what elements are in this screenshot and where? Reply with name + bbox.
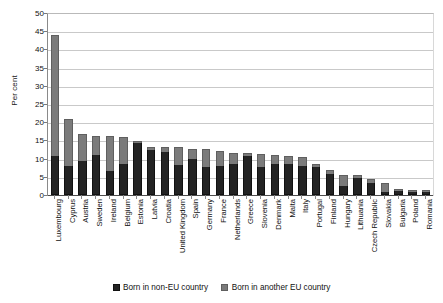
x-label-slot: Luxembourg bbox=[47, 197, 61, 275]
stacked-bar[interactable] bbox=[51, 35, 60, 195]
x-label-slot: Greece bbox=[240, 197, 254, 275]
x-label-slot: Bulgaria bbox=[391, 197, 405, 275]
bar-slot bbox=[282, 14, 296, 195]
y-axis-tick-label: 30 bbox=[35, 81, 44, 90]
x-axis-tick-labels: LuxembourgCyprusAustriaSwedenIrelandBelg… bbox=[47, 197, 432, 275]
y-axis-tick bbox=[44, 13, 47, 14]
bar-segment-born-in-non-eu-country bbox=[367, 183, 376, 195]
bar-slot bbox=[158, 14, 172, 195]
bar-segment-born-in-non-eu-country bbox=[147, 150, 156, 195]
bar-segment-born-in-non-eu-country bbox=[174, 165, 183, 195]
bar-segment-born-in-non-eu-country bbox=[51, 156, 60, 195]
stacked-bar[interactable] bbox=[367, 179, 376, 195]
stacked-bar[interactable] bbox=[106, 136, 115, 195]
x-label-slot: Romania bbox=[418, 197, 432, 275]
bar-slot bbox=[254, 14, 268, 195]
bar-segment-born-in-non-eu-country bbox=[298, 166, 307, 195]
bar-segment-born-in-non-eu-country bbox=[119, 164, 128, 195]
bar-segment-born-in-non-eu-country bbox=[257, 167, 266, 195]
stacked-bar[interactable] bbox=[133, 141, 142, 195]
bar-segment-born-in-non-eu-country bbox=[78, 161, 87, 195]
stacked-bar[interactable] bbox=[353, 175, 362, 195]
y-axis-tick-label: 25 bbox=[35, 100, 44, 109]
bar-slot bbox=[392, 14, 406, 195]
bar-slot bbox=[241, 14, 255, 195]
stacked-bar[interactable] bbox=[284, 156, 293, 195]
bar-segment-born-in-another-eu-country bbox=[381, 183, 390, 192]
stacked-bar[interactable] bbox=[298, 157, 307, 195]
chart-legend: Born in non-EU country Born in another E… bbox=[0, 283, 443, 292]
bar-segment-born-in-another-eu-country bbox=[174, 147, 183, 166]
stacked-bar[interactable] bbox=[147, 147, 156, 195]
stacked-bar[interactable] bbox=[64, 119, 73, 195]
stacked-bar[interactable] bbox=[381, 183, 390, 195]
legend-item-non-eu: Born in non-EU country bbox=[113, 283, 209, 292]
y-axis-tick bbox=[44, 104, 47, 105]
stacked-bar[interactable] bbox=[339, 175, 348, 195]
x-axis-tick-label: Romania bbox=[425, 199, 434, 229]
x-label-slot: Croatia bbox=[157, 197, 171, 275]
stacked-bar[interactable] bbox=[188, 149, 197, 195]
stacked-bar[interactable] bbox=[174, 147, 183, 195]
bar-segment-born-in-non-eu-country bbox=[202, 167, 211, 195]
bar-slot bbox=[144, 14, 158, 195]
y-axis-tick-label: 50 bbox=[35, 9, 44, 18]
bar-segment-born-in-another-eu-country bbox=[284, 156, 293, 164]
legend-swatch-other-eu-icon bbox=[221, 284, 228, 291]
stacked-bar-chart: Per cent 05101520253035404550 Luxembourg… bbox=[0, 0, 443, 303]
stacked-bar[interactable] bbox=[326, 170, 335, 195]
bar-slot bbox=[323, 14, 337, 195]
bar-slot bbox=[351, 14, 365, 195]
x-label-slot: Cyprus bbox=[61, 197, 75, 275]
bar-slot bbox=[62, 14, 76, 195]
stacked-bar[interactable] bbox=[216, 151, 225, 195]
x-label-slot: Estonia bbox=[130, 197, 144, 275]
bar-slot bbox=[227, 14, 241, 195]
bar-slot bbox=[131, 14, 145, 195]
stacked-bar[interactable] bbox=[243, 153, 252, 195]
x-label-slot: Denmark bbox=[267, 197, 281, 275]
stacked-bar[interactable] bbox=[257, 154, 266, 195]
bar-slot bbox=[172, 14, 186, 195]
bar-segment-born-in-non-eu-country bbox=[188, 159, 197, 195]
legend-item-other-eu: Born in another EU country bbox=[221, 283, 330, 292]
x-label-slot: Portugal bbox=[308, 197, 322, 275]
x-label-slot: France bbox=[212, 197, 226, 275]
x-label-slot: Spain bbox=[185, 197, 199, 275]
bar-slot bbox=[117, 14, 131, 195]
y-axis-tick bbox=[44, 177, 47, 178]
bar-slot bbox=[76, 14, 90, 195]
bar-segment-born-in-another-eu-country bbox=[64, 119, 73, 166]
bar-segment-born-in-another-eu-country bbox=[257, 154, 266, 167]
y-axis-tick-labels: 05101520253035404550 bbox=[22, 13, 44, 195]
bar-segment-born-in-non-eu-country bbox=[229, 164, 238, 195]
stacked-bar[interactable] bbox=[271, 155, 280, 195]
bar-segment-born-in-non-eu-country bbox=[133, 143, 142, 195]
bar-segment-born-in-another-eu-country bbox=[119, 137, 128, 164]
bar-group bbox=[48, 14, 433, 195]
bar-segment-born-in-another-eu-country bbox=[92, 136, 101, 155]
bar-segment-born-in-another-eu-country bbox=[106, 136, 115, 171]
stacked-bar[interactable] bbox=[312, 164, 321, 195]
x-label-slot: Germany bbox=[198, 197, 212, 275]
stacked-bar[interactable] bbox=[119, 137, 128, 195]
stacked-bar[interactable] bbox=[161, 147, 170, 195]
bar-slot bbox=[268, 14, 282, 195]
bar-segment-born-in-non-eu-country bbox=[271, 164, 280, 195]
bar-slot bbox=[89, 14, 103, 195]
bar-segment-born-in-another-eu-country bbox=[229, 153, 238, 164]
stacked-bar[interactable] bbox=[78, 134, 87, 196]
bar-segment-born-in-another-eu-country bbox=[78, 134, 87, 162]
x-label-slot: Sweden bbox=[88, 197, 102, 275]
x-label-slot: Netherlands bbox=[226, 197, 240, 275]
y-axis-tick bbox=[44, 49, 47, 50]
y-axis-tick-label: 15 bbox=[35, 136, 44, 145]
x-label-slot: Austria bbox=[75, 197, 89, 275]
stacked-bar[interactable] bbox=[202, 149, 211, 195]
x-label-slot: Czech Republic bbox=[363, 197, 377, 275]
bar-segment-born-in-non-eu-country bbox=[106, 171, 115, 195]
stacked-bar[interactable] bbox=[229, 153, 238, 195]
bar-segment-born-in-another-eu-country bbox=[51, 35, 60, 156]
stacked-bar[interactable] bbox=[92, 136, 101, 195]
bar-slot bbox=[378, 14, 392, 195]
